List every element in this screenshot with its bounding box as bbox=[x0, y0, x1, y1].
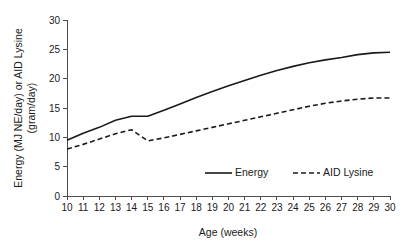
y-tick-label-30: 30 bbox=[49, 15, 61, 26]
x-tick-label-17: 17 bbox=[174, 202, 186, 213]
x-tick-label-25: 25 bbox=[304, 202, 316, 213]
x-axis-title: Age (weeks) bbox=[199, 226, 257, 238]
y-axis-title-line2: (gram/day) bbox=[25, 83, 37, 134]
series-line-aid-lysine bbox=[67, 98, 390, 149]
x-tick-label-21: 21 bbox=[239, 202, 251, 213]
y-axis-title-line1: Energy (MJ NE/day) or AID Lysine bbox=[12, 28, 24, 188]
chart-legend: EnergyAID Lysine bbox=[205, 166, 374, 178]
series-group bbox=[67, 52, 390, 149]
x-tick-label-12: 12 bbox=[94, 202, 106, 213]
x-tick-label-18: 18 bbox=[191, 202, 203, 213]
x-tick-label-19: 19 bbox=[207, 202, 219, 213]
legend-label-aid-lysine: AID Lysine bbox=[323, 166, 374, 178]
x-tick-label-24: 24 bbox=[288, 202, 300, 213]
x-tick-label-13: 13 bbox=[110, 202, 122, 213]
x-tick-label-15: 15 bbox=[142, 202, 154, 213]
x-tick-label-22: 22 bbox=[255, 202, 267, 213]
x-tick-label-26: 26 bbox=[320, 202, 332, 213]
x-tick-label-30: 30 bbox=[384, 202, 396, 213]
y-axis-ticks: 051015202530 bbox=[49, 15, 67, 202]
series-line-energy bbox=[67, 52, 390, 140]
y-tick-label-15: 15 bbox=[49, 103, 61, 114]
x-tick-label-29: 29 bbox=[368, 202, 380, 213]
y-tick-label-10: 10 bbox=[49, 132, 61, 143]
line-chart: 051015202530 101112131415161718192021222… bbox=[0, 0, 403, 244]
x-tick-label-11: 11 bbox=[78, 202, 89, 213]
y-tick-label-25: 25 bbox=[49, 44, 61, 55]
x-tick-label-10: 10 bbox=[61, 202, 73, 213]
x-tick-label-16: 16 bbox=[158, 202, 170, 213]
x-axis-ticks: 1011121314151617181920212223242526272829… bbox=[61, 196, 396, 213]
chart-canvas: 051015202530 101112131415161718192021222… bbox=[0, 0, 403, 244]
x-tick-label-14: 14 bbox=[126, 202, 138, 213]
y-tick-label-5: 5 bbox=[54, 161, 60, 172]
legend-label-energy: Energy bbox=[235, 166, 269, 178]
y-tick-label-20: 20 bbox=[49, 73, 61, 84]
x-tick-label-23: 23 bbox=[271, 202, 283, 213]
x-tick-label-20: 20 bbox=[223, 202, 235, 213]
y-tick-label-0: 0 bbox=[54, 191, 60, 202]
x-tick-label-27: 27 bbox=[336, 202, 348, 213]
x-tick-label-28: 28 bbox=[352, 202, 364, 213]
